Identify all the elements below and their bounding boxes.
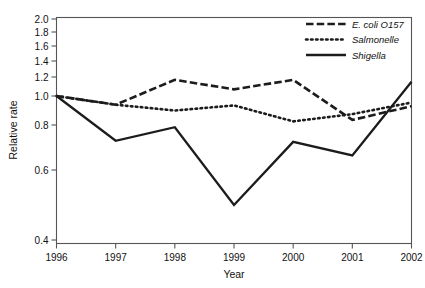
data-series-group	[57, 80, 412, 205]
x-axis-tick-labels: 1996199719981999200020012002	[45, 252, 423, 263]
chart-figure: 2.01.81.61.41.21.00.80.60.4 199619971998…	[0, 0, 425, 288]
y-tick-label: 1.8	[35, 27, 49, 38]
y-tick-label: 1.2	[35, 72, 49, 83]
y-tick-label: 0.6	[35, 165, 49, 176]
x-tick-label: 1999	[223, 252, 246, 263]
y-tick-label: 1.0	[35, 91, 49, 102]
x-tick-label: 1997	[105, 252, 128, 263]
x-tick-label: 1996	[45, 252, 68, 263]
x-axis-title: Year	[223, 268, 245, 280]
x-tick-label: 1998	[164, 252, 187, 263]
y-axis-ticks	[52, 19, 57, 240]
series-line-shigella	[57, 82, 412, 205]
legend-label: E. coli O157	[352, 19, 404, 30]
line-chart: 2.01.81.61.41.21.00.80.60.4 199619971998…	[0, 0, 425, 288]
x-axis-ticks	[57, 244, 412, 249]
y-axis-title: Relative rate	[7, 100, 19, 159]
y-tick-label: 2.0	[35, 14, 49, 25]
y-tick-label: 1.4	[35, 56, 49, 67]
legend-label: Shigella	[352, 50, 386, 61]
y-tick-label: 0.4	[35, 235, 49, 246]
y-tick-label: 1.6	[35, 41, 49, 52]
y-tick-label: 0.8	[35, 120, 49, 131]
x-tick-label: 2002	[400, 252, 423, 263]
legend-label: Salmonelle	[352, 34, 399, 45]
x-tick-label: 2001	[341, 252, 364, 263]
y-axis-tick-labels: 2.01.81.61.41.21.00.80.60.4	[35, 14, 49, 246]
x-tick-label: 2000	[282, 252, 305, 263]
chart-legend: E. coli O157SalmonelleShigella	[306, 19, 404, 61]
